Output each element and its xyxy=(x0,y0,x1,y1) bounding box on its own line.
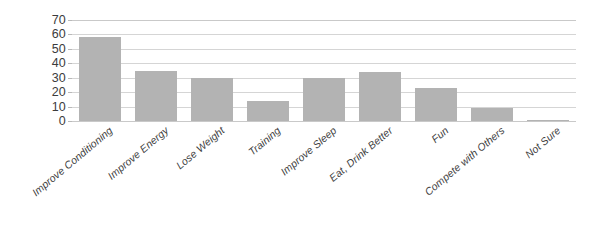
x-axis-labels: Improve ConditioningImprove EnergyLose W… xyxy=(72,124,576,232)
bar xyxy=(135,71,178,122)
y-axis-tick-mark xyxy=(68,49,72,50)
x-axis-tick-label: Not Sure xyxy=(522,124,562,160)
y-axis-tick-mark xyxy=(68,78,72,79)
bar xyxy=(415,88,458,121)
y-axis-tick-label: 40 xyxy=(6,57,66,70)
bar-slot xyxy=(240,20,296,121)
bar xyxy=(527,120,570,121)
bar-slot xyxy=(352,20,408,121)
x-axis-tick-label: Lose Weight xyxy=(173,124,226,171)
bar-slot xyxy=(408,20,464,121)
bar xyxy=(79,37,122,121)
y-axis-tick-mark xyxy=(68,121,72,122)
plot-area xyxy=(72,20,576,121)
bars xyxy=(72,20,576,121)
y-axis-tick-mark xyxy=(68,107,72,108)
y-axis-tick-label: 70 xyxy=(6,14,66,27)
x-axis-tick-label: Training xyxy=(246,124,283,158)
y-axis-tick-mark xyxy=(68,92,72,93)
y-axis-tick-mark xyxy=(68,34,72,35)
bar-chart: 706050403020100 Improve ConditioningImpr… xyxy=(0,0,601,233)
bar xyxy=(471,108,514,121)
y-axis-tick-label: 60 xyxy=(6,28,66,41)
plot-area-wrapper xyxy=(72,20,576,121)
bar-slot xyxy=(464,20,520,121)
bar-slot xyxy=(184,20,240,121)
y-axis-tick-label: 10 xyxy=(6,101,66,114)
y-axis-tick-mark xyxy=(68,63,72,64)
x-axis-tick-label: Improve Sleep xyxy=(278,124,339,178)
y-axis-tick-mark xyxy=(68,20,72,21)
bar-slot xyxy=(296,20,352,121)
x-axis-tick-label: Fun xyxy=(429,124,451,145)
gridline-0 xyxy=(72,121,576,122)
bar xyxy=(303,78,346,121)
bar-slot xyxy=(72,20,128,121)
bar-slot xyxy=(128,20,184,121)
y-axis-tick-label: 50 xyxy=(6,43,66,56)
bar xyxy=(191,78,234,121)
y-axis-labels: 706050403020100 xyxy=(0,0,66,233)
bar xyxy=(247,101,290,121)
y-axis-tick-label: 0 xyxy=(6,115,66,128)
y-axis-tick-label: 20 xyxy=(6,86,66,99)
y-axis-tick-label: 30 xyxy=(6,72,66,85)
bar xyxy=(359,72,402,121)
bar-slot xyxy=(520,20,576,121)
